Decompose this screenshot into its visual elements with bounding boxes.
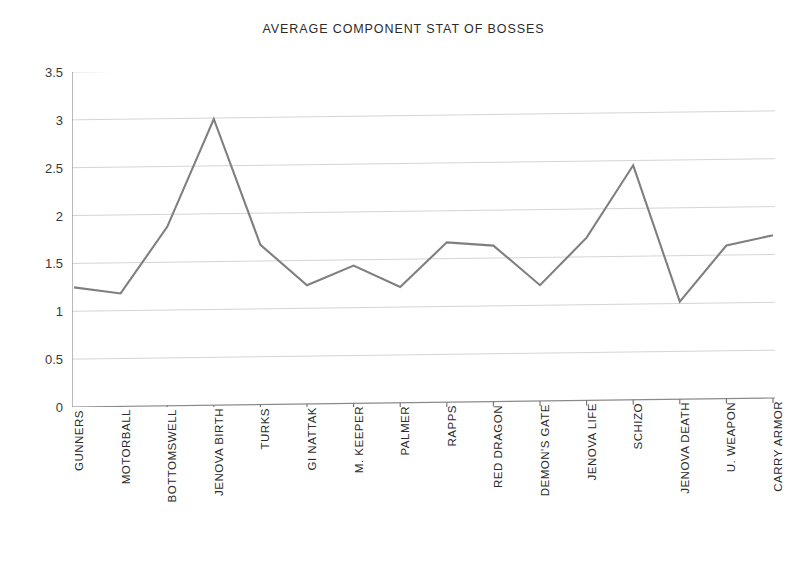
y-axis-tick-label: 2 — [56, 208, 63, 223]
plot-svg — [72, 72, 775, 407]
gridline — [72, 302, 775, 311]
x-axis-tick-label: GI NATTAK — [306, 407, 318, 471]
y-axis-tick-label: 3 — [56, 112, 63, 127]
gridline — [72, 111, 775, 120]
x-axis-tick-label: BOTTOMSWELL — [166, 409, 178, 502]
chart-title: AVERAGE COMPONENT STAT OF BOSSES — [0, 22, 807, 36]
x-axis-tick-label: TURKS — [259, 408, 271, 449]
x-axis-tick-label: CARRY ARMOR — [772, 401, 784, 492]
gridline — [72, 350, 775, 359]
x-axis-tick-label: JENOVA DEATH — [679, 402, 691, 494]
gridline — [72, 207, 775, 216]
y-axis-tick-label: 3.5 — [45, 65, 63, 80]
plot-area: 00.511.522.533.5 — [72, 72, 775, 407]
x-axis-tick-label: PALMER — [399, 406, 411, 455]
x-axis-tick-label: M. KEEPER — [353, 406, 365, 473]
y-axis-tick-label: 1.5 — [45, 256, 63, 271]
gridline — [72, 159, 775, 168]
x-axis-tick-label: U. WEAPON — [725, 402, 737, 472]
y-axis-tick-label: 0.5 — [45, 352, 63, 367]
x-axis-tick-label: RED DRAGON — [492, 405, 504, 488]
x-axis-tick-label: RAPPS — [446, 405, 458, 447]
x-axis-tick-label: MOTORBALL — [120, 409, 132, 484]
x-axis-tick-label: SCHIZO — [632, 403, 644, 449]
data-series-line — [74, 119, 773, 302]
y-axis-tick-label: 0 — [56, 400, 63, 415]
gridline — [72, 398, 775, 407]
x-axis-tick-label: JENOVA LIFE — [586, 403, 598, 481]
gridlines-group — [72, 72, 775, 407]
gridline — [72, 254, 775, 263]
x-axis-tick-label: GUNNERS — [73, 410, 85, 471]
x-axis-tick-labels: GUNNERSMOTORBALLBOTTOMSWELLJENOVA BIRTHT… — [72, 410, 775, 560]
x-axis-tick-label: JENOVA BIRTH — [213, 408, 225, 496]
x-axis-tick-label: DEMON'S GATE — [539, 404, 551, 496]
y-axis-tick-label: 1 — [56, 304, 63, 319]
chart-figure: AVERAGE COMPONENT STAT OF BOSSES 00.511.… — [0, 0, 807, 564]
y-axis-tick-label: 2.5 — [45, 160, 63, 175]
